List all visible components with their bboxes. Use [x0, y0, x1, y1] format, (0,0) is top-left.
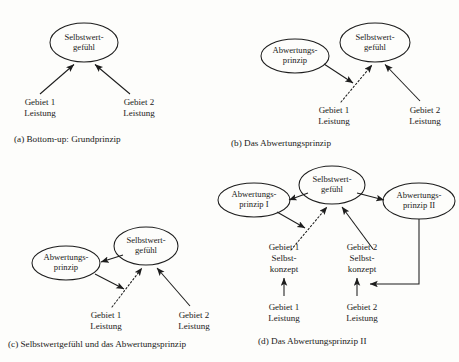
node-selbstwertgefuehl-line2: gefühl — [135, 245, 158, 255]
leaf-gebiet1-line2: Leistung — [90, 321, 122, 331]
edge-selbstwert-to-abwertung — [101, 255, 123, 262]
node-selbstwertgefuehl-line2: gefühl — [364, 42, 387, 52]
edge-gebiet1-to-selbstwert — [40, 65, 74, 95]
leaf-gebiet1-line1: Gebiet 1 — [25, 97, 56, 107]
panel-a-caption: (a) Bottom-up: Grundprinzip — [14, 134, 121, 144]
leaf-konzept2-line1: Gebiet 2 — [347, 242, 378, 252]
edge-gebiet1-to-selbstwert-dotted — [112, 268, 142, 307]
leaf-gebiet2-line1: Gebiet 2 — [179, 310, 210, 320]
node-abwertungsprinzip-i-line2: prinzip I — [239, 199, 268, 209]
node-selbstwertgefuehl-line1: Selbstwert- — [355, 32, 394, 42]
panel-c-caption: (c) Selbstwertgefühl und das Abwertungsp… — [8, 339, 187, 349]
leaf-gebiet2-line1: Gebiet 2 — [124, 97, 155, 107]
leaf-konzept1-line3: konzept — [270, 264, 299, 274]
leaf-gebiet1-line1: Gebiet 1 — [319, 105, 350, 115]
edge-abwertung-to-gebiet1-link — [324, 64, 353, 83]
panel-b-graph: Abwertungs- prinzip Selbstwert- gefühl G… — [229, 0, 459, 160]
leaf-gebiet2-line2: Leistung — [346, 313, 378, 323]
node-abwertungsprinzip-i-line1: Abwertungs- — [232, 189, 277, 199]
node-selbstwertgefuehl-line2: gefühl — [73, 42, 96, 52]
leaf-gebiet2-line1: Gebiet 2 — [347, 302, 378, 312]
leaf-gebiet1-line1: Gebiet 1 — [269, 302, 300, 312]
node-abwertungsprinzip-line2: prinzip — [283, 55, 307, 65]
leaf-gebiet1-line2: Leistung — [268, 313, 300, 323]
leaf-gebiet2-line2: Leistung — [178, 321, 210, 331]
leaf-konzept2-line3: konzept — [348, 264, 377, 274]
node-abwertungsprinzip-ii-line1: Abwertungs- — [397, 190, 442, 200]
panel-d: Abwertungs- prinzip I Selbstwert- gefühl… — [229, 158, 459, 362]
edge-gebiet2-to-selbstwert — [95, 65, 130, 95]
edge-abwertung-i-to-konzept1-link — [277, 212, 305, 228]
leaf-konzept1-line2: Selbst- — [271, 253, 296, 263]
leaf-gebiet1-line2: Leistung — [318, 116, 350, 126]
figure-four-panel-diagram: Selbstwert- gefühl Gebiet 1 Leistung Geb… — [0, 0, 459, 362]
panel-d-graph: Abwertungs- prinzip I Selbstwert- gefühl… — [229, 158, 459, 362]
leaf-gebiet1-line2: Leistung — [24, 108, 56, 118]
leaf-gebiet2-line2: Leistung — [409, 116, 441, 126]
node-selbstwertgefuehl-line1: Selbstwert- — [64, 32, 103, 42]
edge-gebiet2-to-selbstwert — [385, 65, 420, 102]
edge-abwertung-to-gebiet1-link — [95, 274, 124, 289]
node-abwertungsprinzip-line2: prinzip — [54, 262, 78, 272]
panel-a: Selbstwert- gefühl Gebiet 1 Leistung Geb… — [0, 0, 230, 160]
leaf-gebiet1-line1: Gebiet 1 — [91, 310, 122, 320]
leaf-gebiet2-line2: Leistung — [123, 108, 155, 118]
node-abwertungsprinzip-line1: Abwertungs- — [273, 45, 318, 55]
panel-c-graph: Abwertungs- prinzip Selbstwert- gefühl G… — [0, 158, 230, 362]
edge-selbstwert-to-abwertung-ii — [357, 193, 384, 200]
node-abwertungsprinzip-line1: Abwertungs- — [44, 252, 89, 262]
node-abwertungsprinzip-ii-line2: prinzip II — [403, 200, 435, 210]
edge-gebiet1-to-selbstwert-dotted — [341, 65, 372, 102]
panel-b-caption: (b) Das Abwertungsprinzip — [231, 138, 331, 148]
node-selbstwertgefuehl-line2: gefühl — [321, 184, 344, 194]
panel-c: Abwertungs- prinzip Selbstwert- gefühl G… — [0, 158, 230, 362]
node-selbstwertgefuehl-line1: Selbstwert- — [312, 174, 351, 184]
panel-d-caption: (d) Das Abwertungsprinzip II — [258, 336, 366, 346]
panel-a-graph: Selbstwert- gefühl Gebiet 1 Leistung Geb… — [0, 0, 230, 160]
leaf-konzept1-line1: Gebiet 1 — [269, 242, 300, 252]
edge-gebiet2-to-selbstwert — [157, 268, 190, 306]
node-selbstwertgefuehl-line1: Selbstwert- — [126, 235, 165, 245]
leaf-konzept2-line2: Selbst- — [349, 253, 374, 263]
leaf-gebiet2-line1: Gebiet 2 — [410, 105, 441, 115]
panel-b: Abwertungs- prinzip Selbstwert- gefühl G… — [229, 0, 459, 160]
